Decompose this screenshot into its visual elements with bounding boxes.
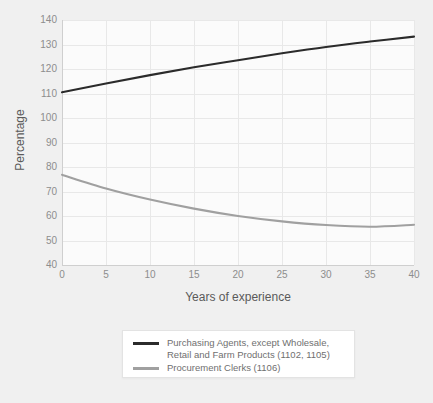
line-chart: 405060708090100110120130140 051015202530…: [0, 0, 433, 403]
legend-item[interactable]: Procurement Clerks (1106): [133, 362, 280, 374]
y-tick-label: 120: [5, 64, 57, 74]
gridline-horizontal: [62, 69, 414, 70]
y-tick-label: 40: [5, 260, 57, 270]
legend-swatch-procurement-clerks: [133, 367, 159, 370]
gridline-horizontal: [62, 241, 414, 242]
x-tick-label: 5: [91, 270, 121, 280]
legend-swatch-purchasing-agents: [133, 342, 159, 345]
x-tick-label: 30: [311, 270, 341, 280]
y-axis-title: Percentage: [13, 92, 27, 188]
gridline-horizontal: [62, 216, 414, 217]
gridline-horizontal: [62, 118, 414, 119]
y-tick-label: 70: [5, 187, 57, 197]
gridline-horizontal: [62, 45, 414, 46]
x-axis-line: [62, 265, 414, 266]
gridline-horizontal: [62, 167, 414, 168]
x-tick-label: 0: [47, 270, 77, 280]
x-tick-label: 15: [179, 270, 209, 280]
y-tick-label: 50: [5, 236, 57, 246]
y-tick-label: 60: [5, 211, 57, 221]
gridline-horizontal: [62, 94, 414, 95]
x-tick-label: 35: [355, 270, 385, 280]
legend: Purchasing Agents, except Wholesale, Ret…: [122, 330, 355, 378]
y-axis-line: [62, 20, 63, 265]
x-axis-title: Years of experience: [62, 290, 414, 304]
gridline-horizontal: [62, 20, 414, 21]
gridline-horizontal: [62, 143, 414, 144]
y-axis-tick-labels: 405060708090100110120130140: [0, 0, 57, 403]
x-tick-label: 40: [399, 270, 429, 280]
legend-label-procurement-clerks: Procurement Clerks (1106): [167, 362, 280, 374]
y-tick-label: 130: [5, 40, 57, 50]
legend-item[interactable]: Purchasing Agents, except Wholesale, Ret…: [133, 337, 330, 361]
x-tick-label: 25: [267, 270, 297, 280]
x-tick-label: 20: [223, 270, 253, 280]
legend-label-purchasing-agents: Purchasing Agents, except Wholesale, Ret…: [167, 337, 330, 361]
x-tick-label: 10: [135, 270, 165, 280]
gridline-horizontal: [62, 192, 414, 193]
y-tick-label: 140: [5, 15, 57, 25]
gridline-vertical: [414, 20, 415, 265]
